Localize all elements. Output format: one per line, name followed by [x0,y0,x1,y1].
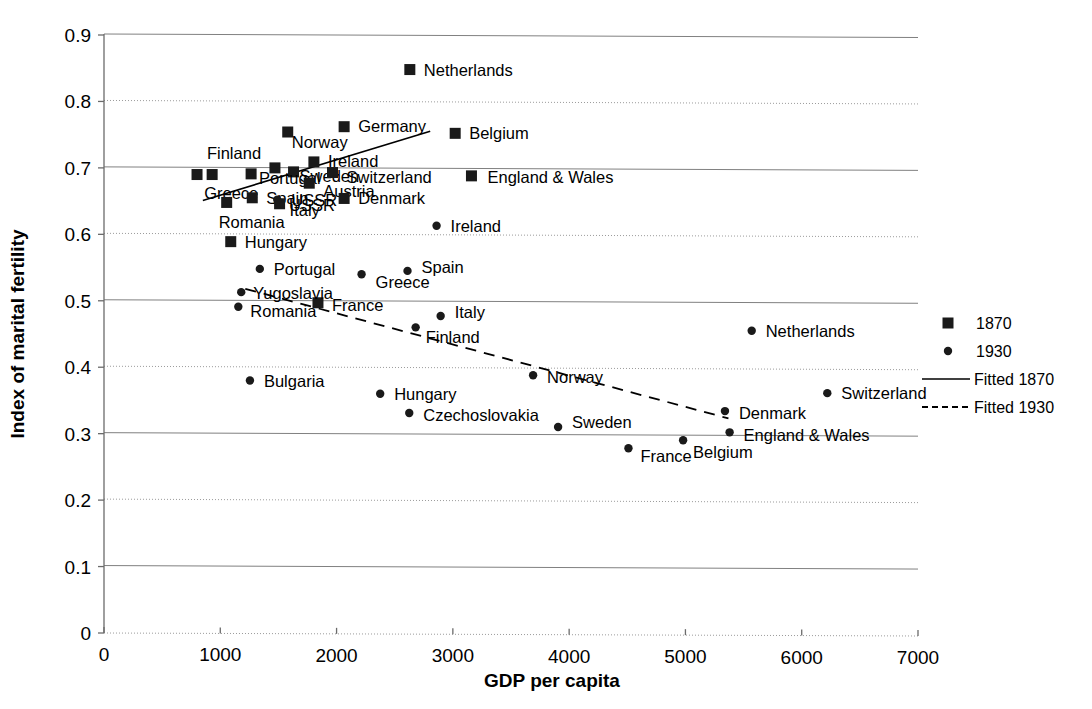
point-label-1930-bulgaria: Bulgaria [264,372,325,390]
point-label-1930-romania: Romania [250,302,317,320]
marker-1930-ussr [273,196,281,204]
marker-1870-greece [207,169,218,180]
x-tick-labels: 01000200030004000500060007000 [99,644,939,668]
marker-1870-hungary [225,236,236,247]
marker-1870-netherlands [404,64,415,75]
marker-1870-denmark [339,193,350,204]
gridlines-group [104,34,918,569]
x-tick-label-3000: 3000 [432,645,474,666]
point-label-1930-ireland: Ireland [451,217,501,235]
legend-label-fitted-1930: Fitted 1930 [974,399,1054,416]
marker-1870-ussr [192,169,203,180]
marker-1930-italy [436,312,444,320]
x-tick-label-6000: 6000 [781,647,823,668]
marker-1930-belgium [679,436,687,444]
marker-1930-finland [411,323,419,331]
gridline-y-0.4 [104,366,918,370]
legend-swatch-1870 [943,318,954,329]
marker-1930-greece [357,270,365,278]
marker-1930-netherlands [748,326,756,334]
marker-1930-czechoslovakia [405,409,413,417]
legend-label-1870: 1870 [976,315,1012,332]
x-tick-label-4000: 4000 [548,646,590,667]
legend-group: 18701930Fitted 1870Fitted 1930 [922,315,1054,416]
legend-swatch-1930 [944,347,952,355]
marker-1870-england-wales [466,170,477,181]
point-label-1930-portugal: Portugal [274,260,335,278]
marker-1870-ireland [308,156,319,167]
point-label-1930-switzerland: Switzerland [841,384,926,402]
point-label-1930-czechoslovakia: Czechoslovakia [423,406,539,424]
marker-1930-romania [234,303,242,311]
point-label-1930-belgium: Belgium [693,443,753,461]
marker-1870-portugal [246,168,257,179]
gridline-y-0.2 [104,499,918,503]
point-label-1930-greece: Greece [376,273,430,291]
point-label-1930-england-wales: England & Wales [744,426,870,444]
point-label-1930-sweden: Sweden [572,413,632,431]
point-label-1870-england-wales: England & Wales [487,168,613,186]
y-tick-label-0.3: 0.3 [65,424,91,445]
marker-1930-hungary [376,390,384,398]
marker-1870-romania [221,197,232,208]
y-tick-label-0.6: 0.6 [65,224,91,245]
gridline-y-0.1 [104,566,918,570]
point-label-1870-norway: Norway [292,133,349,151]
x-axis-title: GDP per capita [484,670,620,691]
point-label-1930-norway: Norway [547,368,604,386]
point-label-1870-denmark: Denmark [358,189,426,207]
y-tick-label-0.1: 0.1 [65,557,91,578]
point-label-1930-hungary: Hungary [394,385,457,403]
point-label-1870-belgium: Belgium [469,124,529,142]
point-label-1930-denmark: Denmark [739,404,807,422]
y-tick-label-0.5: 0.5 [65,291,91,312]
y-axis-title: Index of marital fertility [7,229,28,438]
point-label-1930-france: France [640,447,691,465]
marker-1930-england-wales [725,428,733,436]
point-label-1930-finland: Finland [426,328,480,346]
x-tick-label-2000: 2000 [315,645,357,666]
chart-page: 01000200030004000500060007000 00.10.20.3… [0,0,1092,709]
point-label-1930-yugoslavia: Yugoslavia [253,284,334,302]
point-label-1870-germany: Germany [358,117,427,135]
gridline-y-0.8 [104,100,918,104]
point-label-1870-netherlands: Netherlands [424,61,513,79]
marker-1930-sweden [554,423,562,431]
y-tick-label-0.8: 0.8 [65,91,91,112]
marker-1930-bulgaria [246,376,254,384]
gridline-y-0.5 [104,300,918,304]
point-label-1930-ussr: USSR [291,191,337,209]
point-label-1870-finland: Finland [207,144,261,162]
marker-1930-norway [529,371,537,379]
marker-1930-portugal [256,265,264,273]
gridline-y-0.9 [104,34,918,38]
y-tick-label-0.9: 0.9 [65,25,91,46]
marker-1930-yugoslavia [237,288,245,296]
point-label-1930-italy: Italy [455,303,486,321]
x-tick-label-5000: 5000 [664,646,706,667]
marker-1870-switzerland [327,167,338,178]
x-tick-label-1000: 1000 [199,644,241,665]
point-label-1870-hungary: Hungary [245,233,308,251]
marker-1870-belgium [450,128,461,139]
x-axis-line [104,633,918,636]
point-label-1870-romania: Romania [219,213,286,231]
y-tick-labels: 00.10.20.30.40.50.60.70.80.9 [65,25,92,644]
marker-1930-switzerland [823,389,831,397]
y-tick-label-0: 0 [80,623,91,644]
scatter-chart: 01000200030004000500060007000 00.10.20.3… [0,0,1092,709]
marker-1870-austria [304,178,315,189]
legend-label-fitted-1870: Fitted 1870 [974,371,1054,388]
data-points-group: NetherlandsGermanyNorwayBelgiumIrelandFi… [192,61,927,466]
marker-1930-france [624,444,632,452]
point-label-1930-netherlands: Netherlands [766,322,855,340]
x-tick-label-0: 0 [99,644,110,665]
y-tick-label-0.7: 0.7 [65,158,91,179]
point-label-1870-france: France [332,296,383,314]
marker-1930-ireland [432,221,440,229]
y-tick-label-0.2: 0.2 [65,490,91,511]
marker-1870-spain [247,192,258,203]
legend-label-1930: 1930 [976,343,1012,360]
x-tick-label-7000: 7000 [897,647,939,668]
marker-1870-germany [339,121,350,132]
